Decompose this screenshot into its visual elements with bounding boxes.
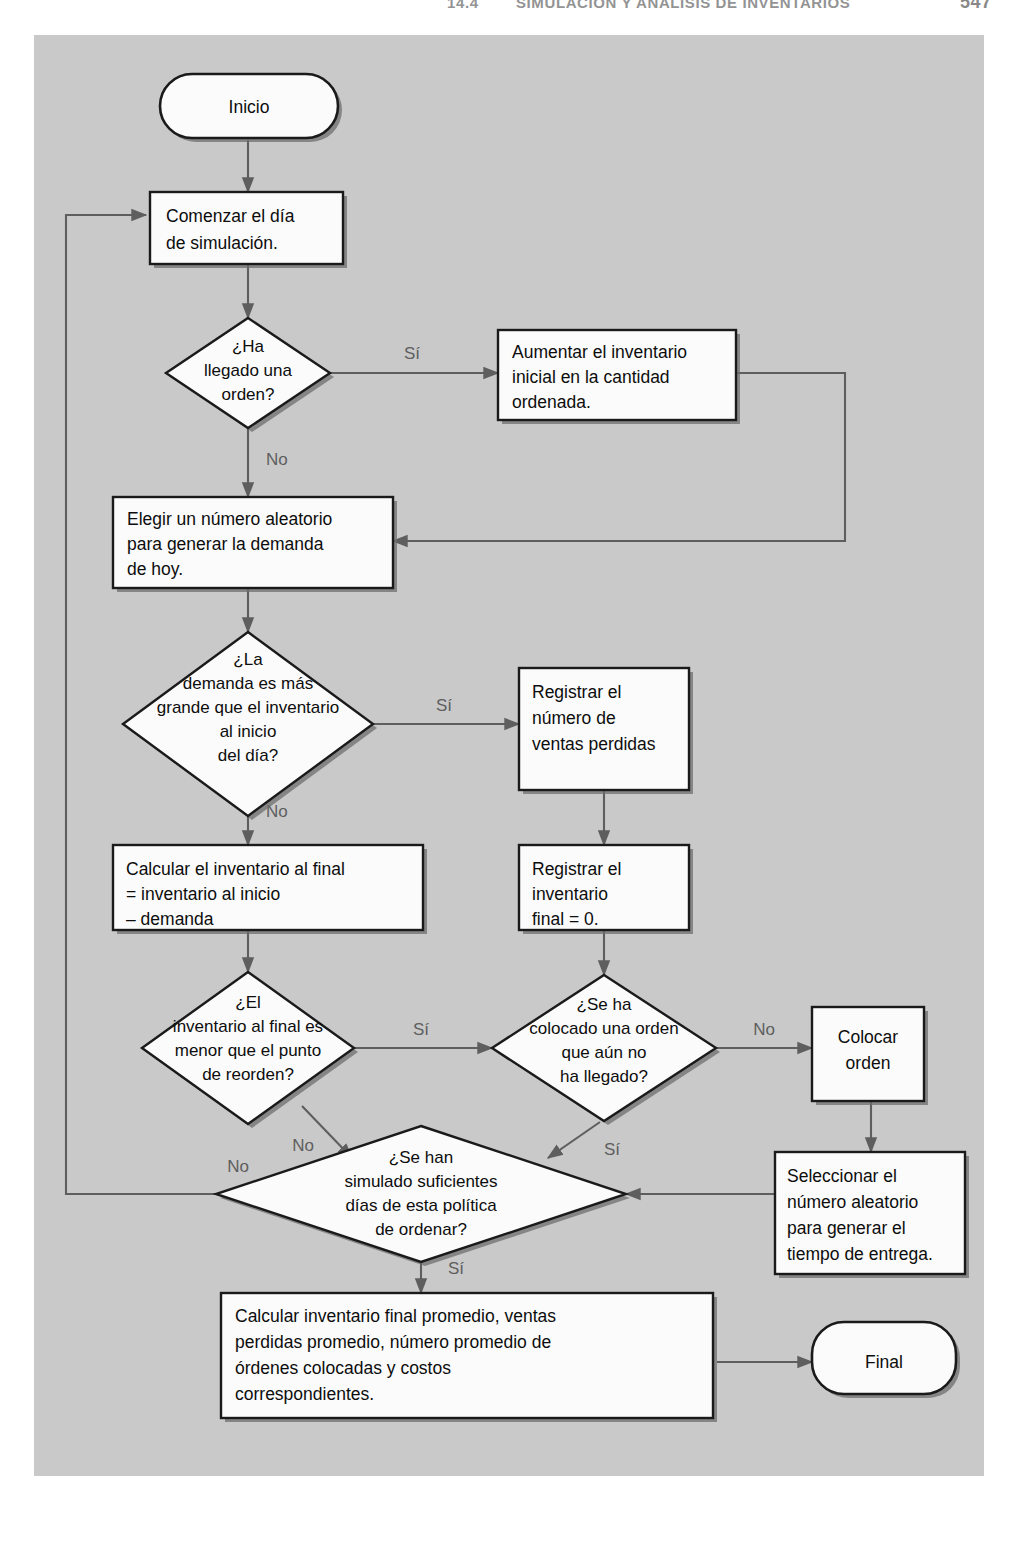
page-canvas: 14.4 SIMULACIÓN Y ANÁLISIS DE INVENTARIO…	[0, 0, 1016, 1544]
node-d-demanda-line4: al inicio	[220, 722, 277, 741]
node-reginv-line3: final = 0.	[532, 909, 599, 929]
node-regventas-line2: número de	[532, 708, 616, 728]
node-registrar-inventario[interactable]: Registrar el inventario final = 0.	[519, 845, 693, 934]
node-decision-orden[interactable]: ¿Ha llegado una orden?	[166, 318, 334, 432]
node-colocar-line2: orden	[846, 1053, 891, 1073]
node-calcularinv-line1: Calcular el inventario al final	[126, 859, 345, 879]
edge-label-si-demanda: Sí	[436, 696, 452, 715]
node-reginv-line1: Registrar el	[532, 859, 621, 879]
node-d-colocado-line2: colocado una orden	[529, 1019, 678, 1038]
node-comenzar[interactable]: Comenzar el día de simulación.	[150, 192, 347, 268]
node-d-dias-line3: días de esta política	[345, 1196, 497, 1215]
node-d-colocado-line1: ¿Se ha	[577, 995, 632, 1014]
node-regventas-line1: Registrar el	[532, 682, 621, 702]
flowchart-svg: Sí No Sí No Sí No No Sí No Sí Inicio Com…	[0, 0, 1016, 1544]
edge-label-no-dias: No	[227, 1157, 249, 1176]
node-d-demanda-line1: ¿La	[233, 650, 263, 669]
edge-label-si-reorden: Sí	[413, 1020, 429, 1039]
node-registrar-ventas[interactable]: Registrar el número de ventas perdidas	[519, 668, 693, 794]
node-elegir-line3: de hoy.	[127, 559, 183, 579]
node-seleccionar-line4: tiempo de entrega.	[787, 1244, 933, 1264]
node-comenzar-line2: de simulación.	[166, 233, 278, 253]
node-aumentar[interactable]: Aumentar el inventario inicial en la can…	[498, 330, 740, 424]
node-colocar-orden[interactable]: Colocar orden	[812, 1007, 928, 1105]
edge-label-no-reorden: No	[292, 1136, 314, 1155]
node-inicio-label: Inicio	[229, 97, 270, 117]
node-d-orden-line2: llegado una	[204, 361, 292, 380]
node-calcularprom-line2: perdidas promedio, número promedio de	[235, 1332, 551, 1352]
node-aumentar-line3: ordenada.	[512, 392, 591, 412]
node-d-reorden-line3: menor que el punto	[175, 1041, 322, 1060]
node-seleccionar[interactable]: Seleccionar el número aleatorio para gen…	[775, 1152, 969, 1278]
node-calcularprom-line4: correspondientes.	[235, 1384, 374, 1404]
node-d-dias-line4: de ordenar?	[375, 1220, 467, 1239]
edge-label-si-dias: Sí	[448, 1259, 464, 1278]
node-final-label: Final	[865, 1352, 903, 1372]
edge-label-si-colocado: Sí	[604, 1140, 620, 1159]
node-d-colocado-line4: ha llegado?	[560, 1067, 648, 1086]
node-reginv-line2: inventario	[532, 884, 608, 904]
edge-label-no-colocado: No	[753, 1020, 775, 1039]
node-elegir-line2: para generar la demanda	[127, 534, 324, 554]
node-seleccionar-line2: número aleatorio	[787, 1192, 918, 1212]
node-calcularprom-line1: Calcular inventario final promedio, vent…	[235, 1306, 556, 1326]
node-final[interactable]: Final	[812, 1322, 960, 1398]
edge-label-no-orden: No	[266, 450, 288, 469]
node-d-reorden-line1: ¿El	[235, 993, 261, 1012]
node-decision-demanda[interactable]: ¿La demanda es más grande que el inventa…	[123, 632, 377, 820]
node-seleccionar-line3: para generar el	[787, 1218, 906, 1238]
node-aumentar-line2: inicial en la cantidad	[512, 367, 670, 387]
node-calcularprom-line3: órdenes colocadas y costos	[235, 1358, 451, 1378]
node-d-demanda-line3: grande que el inventario	[157, 698, 339, 717]
node-d-reorden-line4: de reorden?	[202, 1065, 294, 1084]
node-d-dias-line2: simulado suficientes	[344, 1172, 497, 1191]
node-calcular-inventario[interactable]: Calcular el inventario al final = invent…	[113, 845, 427, 934]
node-calcular-promedio[interactable]: Calcular inventario final promedio, vent…	[221, 1293, 717, 1422]
node-d-demanda-line2: demanda es más	[183, 674, 313, 693]
node-calcularinv-line3: – demanda	[126, 909, 214, 929]
node-regventas-line3: ventas perdidas	[532, 734, 656, 754]
edge-dcolocado-ddias	[548, 1122, 600, 1158]
node-inicio[interactable]: Inicio	[160, 74, 342, 142]
edge-label-si-orden: Sí	[404, 344, 420, 363]
node-seleccionar-line1: Seleccionar el	[787, 1166, 897, 1186]
node-elegir[interactable]: Elegir un número aleatorio para generar …	[113, 497, 397, 592]
node-aumentar-line1: Aumentar el inventario	[512, 342, 687, 362]
node-elegir-line1: Elegir un número aleatorio	[127, 509, 332, 529]
edge-labels-layer: Sí No Sí No Sí No No Sí No Sí	[227, 344, 775, 1278]
node-d-orden-line1: ¿Ha	[232, 337, 265, 356]
node-decision-reorden[interactable]: ¿El inventario al final es menor que el …	[142, 972, 358, 1128]
node-d-demanda-line5: del día?	[218, 746, 279, 765]
node-d-reorden-line2: inventario al final es	[173, 1017, 323, 1036]
node-decision-dias[interactable]: ¿Se han simulado suficientes días de est…	[216, 1126, 630, 1266]
node-colocar-line1: Colocar	[838, 1027, 898, 1047]
node-comenzar-line1: Comenzar el día	[166, 206, 295, 226]
node-calcularinv-line2: = inventario al inicio	[126, 884, 280, 904]
node-d-dias-line1: ¿Se han	[389, 1148, 453, 1167]
node-d-orden-line3: orden?	[222, 385, 275, 404]
node-d-colocado-line3: que aún no	[561, 1043, 646, 1062]
node-decision-colocado[interactable]: ¿Se ha colocado una orden que aún no ha …	[492, 975, 720, 1125]
